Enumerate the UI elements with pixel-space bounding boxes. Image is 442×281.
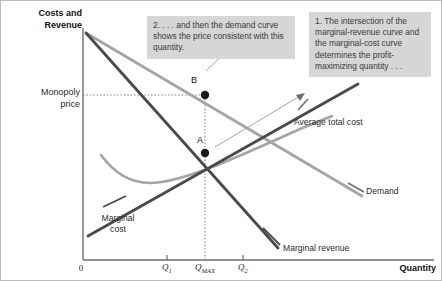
y-axis-title-line2: Revenue <box>18 20 82 32</box>
x-tick-label-qmax: QMAX <box>183 262 227 274</box>
y-axis-title: Costs and Revenue <box>18 8 82 31</box>
monopoly-price-label-line1: Monopoly <box>14 87 80 99</box>
x-tick-q1-sub: 1 <box>169 267 172 274</box>
x-tick-label-q1: Q1 <box>152 262 182 274</box>
marginal-cost-label-line1: Marginal <box>96 213 140 224</box>
x-axis-title: Quantity <box>366 263 436 275</box>
marginal-cost-label-line2: cost <box>96 224 140 235</box>
x-tick-q2-sub: 2 <box>245 267 248 274</box>
point-a-marker <box>201 149 209 157</box>
average-total-cost-label: Average total cost <box>294 117 363 128</box>
origin-tick-label: 0 <box>72 263 90 273</box>
y-axis-title-line1: Costs and <box>18 8 82 20</box>
monopoly-diagram-figure: Costs and Revenue Quantity Monopoly pric… <box>0 0 442 281</box>
x-tick-qmax-sub: MAX <box>201 267 215 274</box>
monopoly-price-label: Monopoly price <box>14 87 80 110</box>
monopoly-price-label-line2: price <box>14 99 80 111</box>
point-b-marker <box>201 91 209 99</box>
marginal-cost-label: Marginal cost <box>96 213 140 234</box>
callout-box-1: 1. The intersection of the marginal-reve… <box>309 12 431 77</box>
demand-label: Demand <box>366 186 398 197</box>
point-a-label: A <box>197 135 203 145</box>
callout-box-2: 2. . . . and then the demand curve shows… <box>147 16 295 59</box>
x-tick-label-q2: Q2 <box>228 262 258 274</box>
marginal-revenue-label: Marginal revenue <box>283 243 349 254</box>
point-b-label: B <box>191 75 197 85</box>
